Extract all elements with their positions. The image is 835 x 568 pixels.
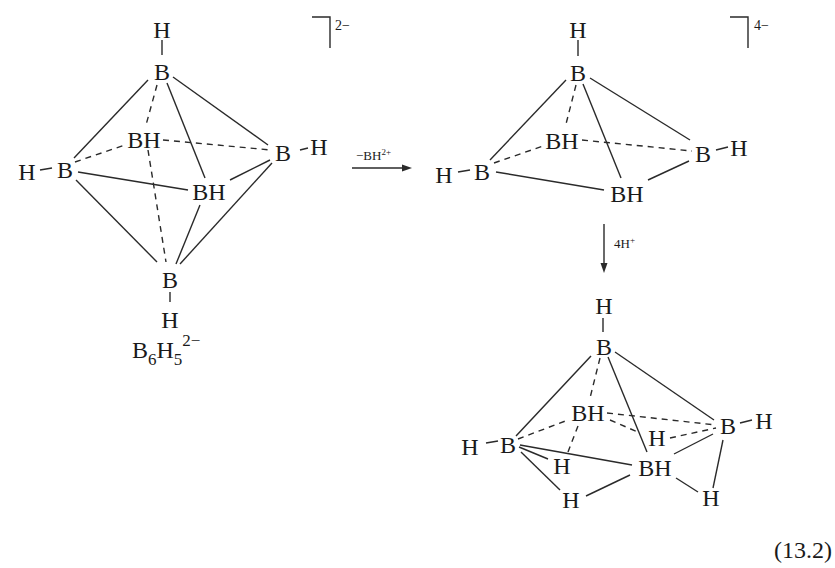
atom-back-bh: BH <box>571 400 604 426</box>
bond-right-front <box>674 434 713 454</box>
atom-left-h: H <box>461 434 478 460</box>
atom-bottom-h: H <box>161 307 178 333</box>
atom-left-h: H <box>435 162 452 188</box>
bond-right-front <box>230 160 270 180</box>
bond-top-front <box>583 84 621 178</box>
atom-back-bh: BH <box>545 128 578 154</box>
bond-left-h <box>486 441 498 443</box>
bond-front-lower-bridge <box>676 478 698 492</box>
bond-lower-bridge-front <box>586 475 630 496</box>
bond-back-right-dashed <box>163 140 271 150</box>
bond-left-back-dashed <box>518 420 568 439</box>
atom-right-b: B <box>275 140 291 166</box>
atom-right-h: H <box>730 135 747 161</box>
atom-right-h: H <box>310 134 327 160</box>
step1-reagent: −BH2+ <box>356 147 391 163</box>
atom-left-b: B <box>57 157 73 183</box>
arrow-down-head-icon <box>601 263 608 273</box>
reaction-arrow-step1: −BH2+ <box>352 147 412 172</box>
intermediate-structure: H B H B BH B H BH 4− <box>435 17 769 207</box>
equation-number: (13.2) <box>774 537 832 563</box>
bond-top-front <box>608 357 647 452</box>
atom-right-h: H <box>755 408 772 434</box>
bond-top-back-dashed <box>590 358 600 398</box>
formula-h: H <box>157 337 174 363</box>
bond-left-h <box>458 170 470 172</box>
charge-reactant: 2− <box>335 18 350 33</box>
atom-back-bh: BH <box>127 127 160 153</box>
formula-label: B6H52− <box>132 331 200 369</box>
bond-right-front <box>648 161 689 180</box>
atom-left-b: B <box>474 159 490 185</box>
step2-reagent: 4H+ <box>614 235 635 251</box>
bond-top-right <box>590 78 690 140</box>
bond-back-bottom-dashed <box>148 150 166 262</box>
bond-back-bridge-left-dashed <box>568 426 578 452</box>
atom-left-b: B <box>500 432 516 458</box>
atom-top-b: B <box>154 59 170 85</box>
charge-intermediate: 4− <box>754 18 769 33</box>
bond-back-right-dashed <box>607 413 716 425</box>
formula-b: B <box>132 337 148 363</box>
reaction-arrow-step2: 4H+ <box>601 224 635 273</box>
atom-bridge-h-left-front: H <box>562 487 579 513</box>
bond-back-right-dashed <box>582 140 692 151</box>
atom-right-b: B <box>720 413 736 439</box>
reaction-scheme: H B H B BH B H BH B H 2− B6H52− −BH2+ H … <box>0 0 835 568</box>
atom-top-b: B <box>596 334 612 360</box>
bond-back-bridge-h-dashed <box>610 420 640 433</box>
bond-top-front <box>167 83 205 178</box>
bond-left-front <box>496 172 604 190</box>
product-structure: H B H B BH B H BH H H H H <box>461 293 772 513</box>
atom-top-h: H <box>595 293 612 319</box>
atom-top-h: H <box>569 17 586 43</box>
bond-left-h <box>40 168 52 170</box>
bond-right-h <box>740 420 752 423</box>
bond-left-bottom <box>76 180 157 262</box>
atom-right-b: B <box>695 141 711 167</box>
atom-bottom-b: B <box>162 267 178 293</box>
bond-top-back-dashed <box>566 85 576 124</box>
charge-bracket-reactant <box>312 17 330 48</box>
atom-bridge-h-front-right: H <box>702 485 719 511</box>
atom-front-bh: BH <box>192 179 225 205</box>
atom-left-h: H <box>18 159 35 185</box>
bond-top-back-dashed <box>146 85 157 125</box>
formula-sub-h: 5 <box>174 350 183 369</box>
bond-right-h <box>716 147 728 150</box>
bond-right-h <box>300 148 308 150</box>
atom-top-b: B <box>570 60 586 86</box>
arrow-right-head-icon <box>402 165 412 172</box>
bond-left-front <box>78 172 188 190</box>
atom-top-h: H <box>153 17 170 43</box>
atom-front-bh: BH <box>610 181 643 207</box>
atom-bridge-h-back-right: H <box>648 425 665 451</box>
atom-front-bh: BH <box>638 455 671 481</box>
formula-charge: 2− <box>182 331 200 350</box>
reactant-structure: H B H B BH B H BH B H 2− B6H52− <box>18 17 350 369</box>
bond-right-lower-bridge <box>713 440 723 488</box>
atom-bridge-h-left-back: H <box>553 453 570 479</box>
bond-left-back-dashed <box>75 145 125 162</box>
formula-sub-b: 6 <box>148 350 157 369</box>
charge-bracket-intermediate <box>730 17 748 48</box>
